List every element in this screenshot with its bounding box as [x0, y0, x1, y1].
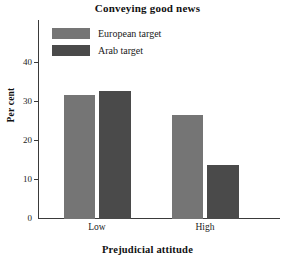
bar-low-european	[64, 95, 95, 219]
bar-chart-figure: Conveying good news 40 30 20 10 0 Per ce…	[0, 0, 295, 271]
y-tick-label-40: 40	[2, 57, 32, 67]
y-tick-label-0: 0	[2, 213, 32, 223]
legend-swatch-european-target	[52, 28, 90, 39]
bar-high-arab	[207, 165, 239, 219]
y-axis-title: Per cent	[6, 70, 16, 140]
legend-item-arab-target: Arab target	[52, 43, 161, 58]
x-axis-title: Prejudicial attitude	[0, 244, 295, 255]
chart-legend: European target Arab target	[52, 26, 161, 60]
x-tick-label-high: High	[165, 222, 245, 232]
legend-item-european-target: European target	[52, 26, 161, 41]
x-tick-label-low: Low	[57, 222, 137, 232]
y-tick-label-10: 10	[2, 174, 32, 184]
legend-swatch-arab-target	[52, 45, 90, 56]
legend-label-arab-target: Arab target	[98, 45, 143, 56]
chart-title: Conveying good news	[0, 2, 295, 14]
legend-label-european-target: European target	[98, 28, 161, 39]
bar-high-european	[172, 115, 203, 219]
bar-low-arab	[99, 91, 131, 219]
